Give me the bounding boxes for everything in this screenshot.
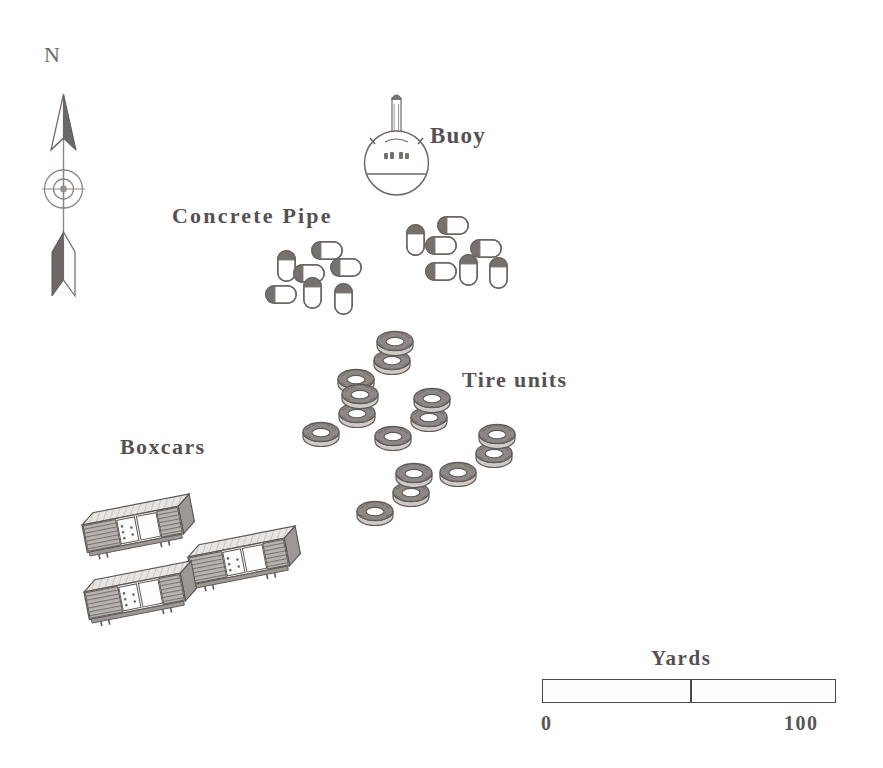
boxcar-cluster: [0, 0, 883, 768]
scale-bar-divider: [690, 680, 692, 702]
scale-bar-end-label: 100: [784, 712, 819, 735]
boxcar: [80, 494, 198, 561]
scale-bar-title: Yards: [651, 646, 712, 671]
scale-bar-start-label: 0: [541, 712, 553, 735]
scale-bar: [542, 679, 836, 703]
boxcar: [82, 561, 200, 628]
nautical-site-map: N: [0, 0, 883, 768]
boxcar: [186, 526, 304, 593]
